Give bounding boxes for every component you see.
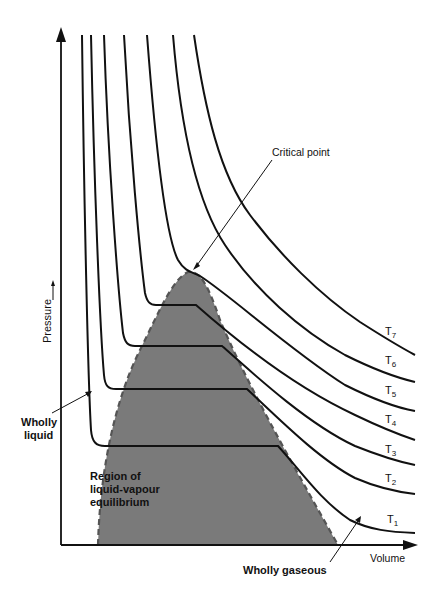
- isotherm-label-t3: T3: [385, 444, 396, 458]
- isotherm-label-t1: T1: [387, 514, 398, 528]
- isotherm-label-t7: T7: [385, 326, 396, 340]
- critical-point-pointer: [195, 160, 272, 268]
- pv-diagram: Critical point Pressure Wholly liquid Re…: [0, 0, 440, 602]
- wholly-liquid-line1: Wholly: [21, 416, 57, 429]
- diagram-canvas: [0, 0, 440, 602]
- region-label: Region of liquid-vapour equilibrium: [90, 470, 160, 509]
- region-line2: liquid-vapour: [90, 483, 160, 496]
- region-line3: equilibrium: [90, 496, 160, 509]
- isotherm-t7: [194, 35, 415, 355]
- wholly-liquid-pointer: [52, 392, 91, 413]
- region-line1: Region of: [90, 470, 160, 483]
- isotherm-label-t4: T4: [385, 414, 396, 428]
- wholly-liquid-label: Wholly liquid: [21, 416, 57, 442]
- critical-point-label: Critical point: [272, 147, 330, 158]
- wholly-liquid-line2: liquid: [21, 429, 57, 442]
- wholly-gaseous-label: Wholly gaseous: [243, 565, 327, 576]
- isotherm-label-t5: T5: [385, 385, 396, 399]
- pressure-label-arrowhead: [51, 280, 55, 286]
- x-axis-label: Volume: [370, 553, 405, 564]
- wholly-liquid-arrowhead: [85, 391, 92, 397]
- isotherm-label-t2: T2: [385, 473, 396, 487]
- x-axis-arrowhead: [403, 540, 418, 550]
- y-axis-label: Pressure: [41, 299, 53, 343]
- isotherm-label-t6: T6: [385, 355, 396, 369]
- y-axis-arrowhead: [56, 27, 66, 42]
